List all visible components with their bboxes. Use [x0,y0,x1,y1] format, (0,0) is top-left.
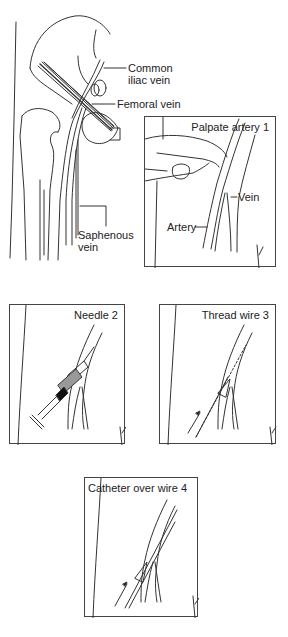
panel-palpate-artery: Palpate artery 1 Vein Artery [144,116,276,267]
label-line-1: Saphenous [78,229,134,241]
panel-thread-wire: Thread wire 3 [159,304,276,444]
panel-title: Thread wire 3 [202,309,269,321]
label-line-2: iliac vein [128,74,173,86]
label-line-1: Common [128,62,173,74]
panel-title: Palpate artery 1 [191,121,269,133]
syringe-needle-drawing [10,305,126,445]
saphenous-vein-label: Saphenous vein [78,229,134,253]
panel-catheter-over-wire: Catheter over wire 4 [84,477,198,617]
femoral-vein-label: Femoral vein [117,98,181,110]
catheter-over-wire-drawing [85,478,199,618]
label-line-2: vein [78,241,134,253]
panel-needle: Needle 2 [9,304,125,444]
artery-label: Artery [167,221,196,233]
panel-title: Needle 2 [74,309,118,321]
vein-label: Vein [238,191,259,203]
common-iliac-vein-label: Common iliac vein [128,62,173,86]
guidewire-threading-drawing [160,305,277,445]
panel-title: Catheter over wire 4 [88,482,187,494]
